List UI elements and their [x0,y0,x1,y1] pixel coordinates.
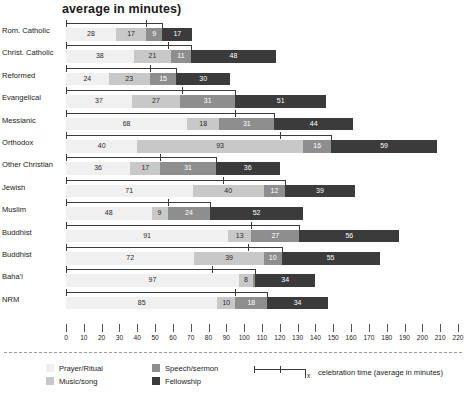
x-axis-tick [387,324,388,332]
bar-segment: 13 [228,230,251,243]
x-axis-tick [191,324,192,332]
legend-swatch-icon [152,377,160,385]
x-axis-tick-label: 10 [80,334,87,341]
x-axis-tick-label: 170 [363,334,374,341]
bar-segment-value: 39 [285,185,354,198]
stacked-bar: 91132756 [66,230,399,243]
bar-segment-value: 10 [264,252,282,265]
bar-segment-value: 8 [239,274,253,287]
chart-title: average in minutes) [62,2,181,16]
bar-segment-value: 93 [137,140,303,153]
bar-segment: 27 [132,95,180,108]
row-label: Messianic [2,116,64,125]
bar-segment: 93 [137,140,303,153]
bar-segment-value: 48 [191,50,277,63]
bar-segment-value: 71 [66,185,193,198]
x-axis-tick-label: 110 [257,334,268,341]
stacked-bar: 71401239 [66,185,355,198]
x-axis-tick-label: 190 [399,334,410,341]
row-label: Other Christian [2,160,64,169]
x-axis-tick [440,324,441,332]
bar-segment-value: 36 [66,162,130,175]
chart-row: Messianic11768183144 [0,110,466,132]
x-axis-tick [173,324,174,332]
bar-segment: 15 [150,73,177,86]
celebration-time-bracket: 81 [66,199,210,207]
x-axis-tick [298,324,299,332]
bar-segment: 18 [235,297,267,310]
celebration-time-bracket: 70 [66,42,191,50]
x-axis-tick [226,324,227,332]
legend-divider [4,352,462,353]
chart-row: Buddhist13191132756 [0,222,466,244]
chart-row: Reformed6224231530 [0,65,466,87]
bar-segment: 39 [285,185,354,198]
bar-segment-value: 27 [132,95,180,108]
celebration-time-bracket: 54 [66,20,162,28]
bar-segment-value: 24 [66,73,109,86]
stacked-bar: 4892452 [66,207,303,220]
bar-segment: 39 [194,252,263,265]
row-label: Rom. Catholic [2,26,64,35]
chart-row: Evangelical9537273151 [0,87,466,109]
bar-segment: 17 [116,28,146,41]
x-axis-tick-label: 140 [310,334,321,341]
x-axis-tick-label: 160 [346,334,357,341]
bar-segment-value: 59 [331,140,436,153]
bar-segment-value: 17 [116,28,146,41]
bar-segment-value: 18 [187,118,219,131]
bar-segment: 72 [66,252,194,265]
bar-segment: 24 [168,207,211,220]
bar-segment-value: 72 [66,252,194,265]
legend-label: Speech/sermon [165,364,218,373]
legend-swatch-icon [152,364,160,372]
row-label: Jewish [2,183,64,192]
bar-segment: 40 [66,140,137,153]
x-axis-tick [280,324,281,332]
x-axis: 0102030405060708090100110120130140150160… [66,324,458,348]
bar-segment-value: 17 [130,162,160,175]
bar-segment-value: 56 [299,230,399,243]
bar-segment-value: 28 [66,28,116,41]
bar-segment-value: 30 [176,73,229,86]
stacked-bar: 36173136 [66,162,280,175]
x-axis-tick-label: 30 [116,334,123,341]
x-axis-tick [66,324,67,332]
bar-segment: 85 [66,297,217,310]
bar-segment-value: 68 [66,118,187,131]
x-axis-tick-label: 180 [381,334,392,341]
bar-segment-value: 31 [160,162,215,175]
celebration-time-bracket: 113 [66,289,267,297]
chart-row: Orthodox14940931659 [0,132,466,154]
chart-legend: x celebration time (average in minutes) … [4,358,462,392]
bar-segment: 40 [193,185,264,198]
bar-segment: 24 [66,73,109,86]
x-axis-tick-label: 130 [292,334,303,341]
bar-segment: 36 [66,162,130,175]
x-axis-tick-label: 50 [151,334,158,341]
bar-segment: 51 [235,95,326,108]
celebration-time-bracket: 131 [66,222,299,230]
bar-segment: 10 [217,297,235,310]
bracket-marker-label: x [307,372,310,379]
row-label: Orthodox [2,138,64,147]
bar-segment-value: 18 [235,297,267,310]
bar-segment-value: 85 [66,297,217,310]
bar-segment: 97 [66,274,239,287]
x-axis-tick [369,324,370,332]
x-axis-tick [422,324,423,332]
chart-row: Baha'i106978134 [0,266,466,288]
bar-segment: 36 [216,162,280,175]
bar-segment: 11 [171,50,191,63]
bar-segment: 31 [219,118,274,131]
row-label: Christ. Catholic [2,48,64,57]
stacked-bar: 37273151 [66,95,326,108]
bar-segment-value: 12 [264,185,285,198]
x-axis-tick-label: 20 [98,334,105,341]
bar-segment-value: 36 [216,162,280,175]
x-axis-tick-label: 0 [64,334,68,341]
x-axis-tick [102,324,103,332]
x-axis-tick [119,324,120,332]
bar-segment-value: 44 [274,118,352,131]
celebration-time-bracket: 123 [66,177,285,185]
